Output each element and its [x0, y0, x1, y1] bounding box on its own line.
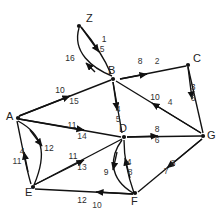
- node-E[interactable]: E: [25, 185, 35, 198]
- node-label-Z: Z: [86, 12, 93, 24]
- edge-label-Z-B-2: 5: [100, 44, 105, 54]
- edge-label-A-E-1: 12: [44, 143, 54, 153]
- edge-label-F-D-2: 8: [128, 167, 133, 177]
- edge-label-C-G-2: 6: [191, 93, 196, 103]
- edge-label-E-D-1: 11: [69, 151, 78, 161]
- edge-label-Z-B-1: 1: [102, 34, 107, 44]
- edge-arrow-B-Z: [86, 63, 95, 72]
- edge-label-D-G-2: 6: [155, 135, 160, 145]
- edge-label-E-D-2: 13: [77, 162, 87, 172]
- edges-layer: [17, 27, 203, 194]
- node-label-G: G: [207, 129, 216, 141]
- edge-label-G-B-2: 4: [168, 97, 173, 107]
- edge-arrow-Z-B: [81, 27, 99, 52]
- node-dot-B: [111, 77, 115, 81]
- node-C[interactable]: C: [186, 52, 201, 67]
- node-A[interactable]: A: [6, 110, 20, 122]
- edge-arrow-B-C: [120, 74, 147, 79]
- edge-path-B-Z: [78, 28, 112, 76]
- node-label-C: C: [193, 52, 201, 64]
- edge-F-E: [35, 189, 133, 194]
- node-Z[interactable]: Z: [77, 12, 93, 28]
- edge-label-A-D-1: 11: [68, 120, 77, 130]
- edge-label-B-D-1: 4: [116, 104, 121, 114]
- node-label-D: D: [119, 122, 127, 134]
- node-label-A: A: [6, 110, 14, 122]
- node-B[interactable]: B: [108, 64, 115, 81]
- edge-label-B-Z-1: 16: [65, 53, 75, 63]
- node-dot-G: [201, 134, 205, 138]
- edge-label-D-G-1: 8: [155, 124, 160, 134]
- edge-A-B: [19, 80, 111, 116]
- edge-label-B-C-2: 2: [155, 56, 160, 66]
- edge-label-B-C-1: 8: [138, 56, 143, 66]
- edge-label-E-A-2: 11: [13, 156, 22, 166]
- node-dot-D: [122, 135, 126, 139]
- edge-label-A-B-2: 15: [69, 96, 79, 106]
- edge-label-G-F-2: 7: [164, 166, 169, 176]
- edge-label-C-G-1: 3: [191, 82, 196, 92]
- edge-label-F-D-1: 4: [127, 157, 132, 167]
- edge-B-C: [120, 66, 186, 79]
- edge-D-G: [127, 136, 201, 137]
- node-dot-C: [186, 63, 190, 67]
- node-dot-Z: [77, 24, 81, 28]
- node-dot-A: [16, 116, 20, 120]
- edge-arrow-A-B: [19, 96, 70, 116]
- edge-label-D-F-1: 9: [104, 167, 109, 177]
- graph-diagram-canvas: 1 5 16 8 2 3 6 10 4 10 15 11 14 4 5 8 6 …: [0, 0, 221, 221]
- edge-arrow-A-E: [30, 130, 42, 146]
- edge-label-E-A-1: 4: [20, 146, 25, 156]
- node-label-F: F: [131, 195, 138, 207]
- edge-label-A-B-1: 10: [55, 85, 65, 95]
- node-label-E: E: [25, 186, 32, 198]
- edge-arrow-E-A: [24, 152, 28, 172]
- edge-label-G-B-1: 10: [150, 92, 160, 102]
- edge-label-G-F-1: 8: [171, 158, 176, 168]
- graph-svg: 1 5 16 8 2 3 6 10 4 10 15 11 14 4 5 8 6 …: [0, 0, 221, 221]
- edge-label-F-E-2: 10: [92, 200, 102, 210]
- edge-B-Z: [78, 28, 112, 76]
- edge-label-A-D-2: 14: [77, 131, 87, 141]
- node-label-B: B: [108, 64, 115, 76]
- edge-label-F-E-1: 12: [77, 195, 87, 205]
